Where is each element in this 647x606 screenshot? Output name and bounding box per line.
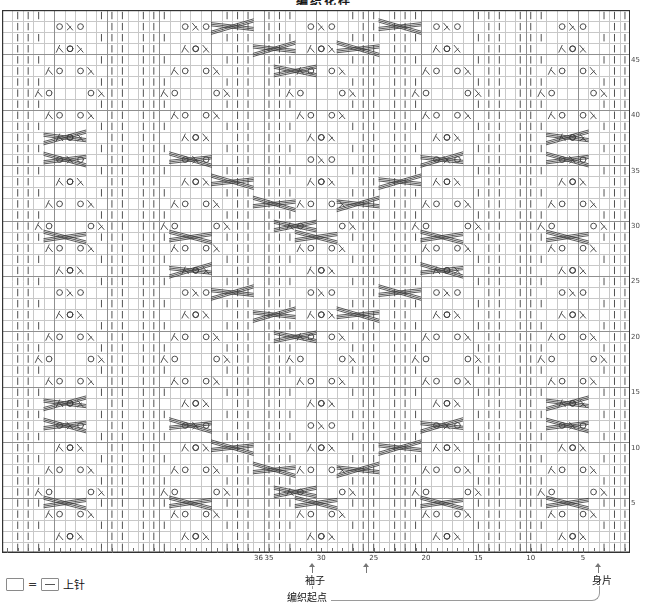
empty-cell-icon	[6, 578, 24, 591]
column-tick-marks	[2, 548, 630, 561]
body-arrow-icon	[595, 563, 601, 567]
row-tick-label: 30	[631, 222, 640, 230]
row-tick-label: 10	[631, 444, 640, 452]
row-tick-label: 40	[631, 111, 640, 119]
legend: = 上针	[6, 576, 85, 592]
column-number-axis: 363530252015105	[2, 553, 630, 566]
sleeve-arrow-icon	[309, 563, 315, 567]
page-title: 编织花样	[0, 0, 647, 5]
knitting-chart-page: 编织花样 363530252015105 45403530252015105 =…	[0, 0, 647, 606]
row-number-axis: 45403530252015105	[630, 10, 647, 553]
start-bracket	[312, 586, 600, 601]
start-arrow-icon	[363, 563, 369, 567]
chart-area[interactable]	[2, 10, 630, 553]
sleeve-label: 袖子	[305, 572, 325, 587]
row-tick-label: 15	[631, 388, 640, 396]
equals-sign: =	[28, 578, 37, 591]
row-tick-label: 20	[631, 333, 640, 341]
start-label: 编织起点	[283, 589, 331, 604]
row-tick-label: 25	[631, 277, 640, 285]
legend-purl-label: 上针	[63, 576, 85, 592]
start-tick	[366, 566, 367, 573]
row-tick-label: 45	[631, 56, 640, 64]
row-tick-label: 5	[631, 499, 635, 507]
body-label: 身片	[592, 572, 612, 587]
chart-symbols	[2, 10, 630, 553]
row-tick-label: 35	[631, 167, 640, 175]
purl-stitch-icon	[41, 578, 59, 591]
